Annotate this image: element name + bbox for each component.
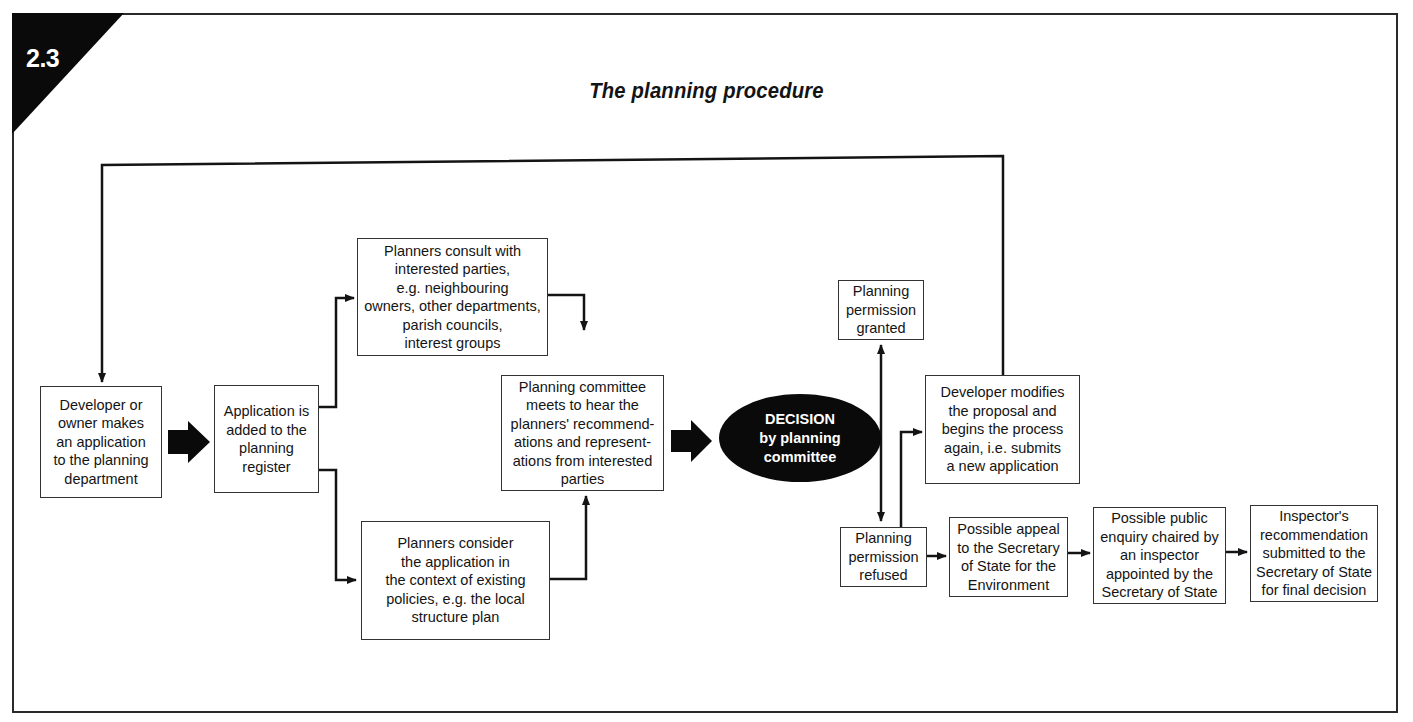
connector-lines [0, 0, 1413, 722]
node-committee-meets: Planning committee meets to hear the pla… [501, 375, 664, 491]
node-consider: Planners consider the application in the… [361, 521, 550, 640]
refused-to-modifies-arrow [901, 432, 922, 527]
consider-to-committee-arrow [550, 496, 586, 579]
node-consult: Planners consult with interested parties… [357, 238, 548, 356]
register-to-consult-arrow [319, 298, 354, 407]
node-modifies: Developer modifies the proposal and begi… [925, 375, 1080, 484]
node-decision: DECISION by planning committee [719, 394, 881, 482]
loop-back-arrow [102, 156, 1003, 382]
register-to-consider-arrow [319, 470, 356, 580]
node-enquiry: Possible public enquiry chaired by an in… [1093, 507, 1226, 604]
block-arrow-committee-to-decision [671, 420, 712, 462]
node-refused: Planning permission refused [840, 527, 927, 587]
node-appeal: Possible appeal to the Secretary of Stat… [949, 517, 1068, 597]
node-granted: Planning permission granted [838, 280, 924, 340]
consult-to-committee-arrow [548, 295, 584, 330]
block-arrow-developer-to-register [168, 421, 210, 463]
node-recommendation: Inspector's recommendation submitted to … [1250, 505, 1378, 602]
node-register: Application is added to the planning reg… [214, 385, 319, 493]
node-developer-applies: Developer or owner makes an application … [40, 386, 162, 498]
